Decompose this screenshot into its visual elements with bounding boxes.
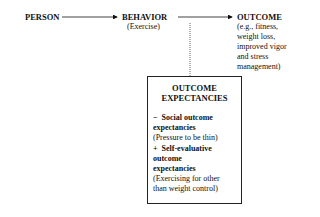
social-expectancy-heading: − Social outcome bbox=[153, 113, 213, 123]
self-evaluative-heading-cont: expectancies bbox=[153, 164, 196, 174]
outcome-detail-line: improved vigor bbox=[237, 42, 287, 52]
plus-sign: + bbox=[153, 144, 158, 153]
box-title-line: OUTCOME bbox=[148, 83, 241, 93]
outcome-detail-line: and stress bbox=[237, 52, 268, 62]
self-evaluative-heading-cont: outcome bbox=[153, 154, 182, 164]
outcome-expectancies-box: OUTCOME EXPECTANCIES − Social outcome ex… bbox=[147, 76, 242, 204]
outcome-detail-line: (e.g., fitness, bbox=[237, 22, 278, 32]
person-node: PERSON bbox=[25, 12, 59, 22]
outcome-detail-line: management) bbox=[237, 62, 281, 72]
behavior-node: BEHAVIOR bbox=[122, 12, 167, 22]
social-expectancy-detail: (Pressure to be thin) bbox=[153, 133, 218, 143]
outcome-node: OUTCOME bbox=[237, 12, 282, 22]
box-title-line: EXPECTANCIES bbox=[148, 93, 241, 103]
self-evaluative-detail: than weight control) bbox=[153, 184, 218, 194]
behavior-detail: (Exercise) bbox=[127, 22, 160, 32]
minus-sign: − bbox=[153, 113, 158, 122]
social-expectancy-heading-cont: expectancies bbox=[153, 123, 196, 133]
self-evaluative-detail: (Exercising for other bbox=[153, 174, 220, 184]
self-evaluative-heading: + Self-evaluative bbox=[153, 144, 212, 154]
outcome-detail-line: weight loss, bbox=[237, 32, 275, 42]
